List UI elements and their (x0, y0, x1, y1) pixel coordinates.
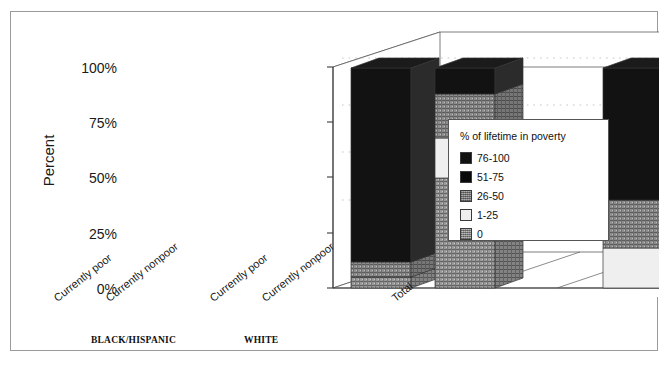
legend-label-26-50: 26-50 (477, 190, 504, 202)
y-tick-label-75: 75% (51, 115, 117, 131)
legend: % of lifetime in poverty 76-100 51-75 26… (448, 119, 609, 241)
y-tick-label-50: 50% (51, 170, 117, 186)
legend-swatch-51-75-icon (460, 171, 472, 183)
legend-label-1-25: 1-25 (477, 209, 498, 221)
bar-white-currently-poor (603, 58, 659, 288)
legend-swatch-1-25-icon (460, 209, 472, 221)
y-tick-label-25: 25% (51, 226, 117, 242)
legend-swatch-0-icon (460, 228, 472, 240)
y-axis-title: Percent (40, 106, 57, 216)
bar-black-hispanic-currently-poor (351, 58, 439, 288)
legend-item-1-25[interactable]: 1-25 (460, 206, 608, 224)
legend-item-51-75[interactable]: 51-75 (460, 168, 608, 186)
chart-figure: 100% 75% 50% 25% 0% Percent Currently po… (0, 0, 670, 370)
legend-item-0[interactable]: 0 (460, 225, 608, 243)
legend-title: % of lifetime in poverty (460, 130, 608, 142)
legend-item-76-100[interactable]: 76-100 (460, 149, 608, 167)
legend-item-26-50[interactable]: 26-50 (460, 187, 608, 205)
legend-label-51-75: 51-75 (477, 171, 504, 183)
legend-label-0: 0 (477, 228, 483, 240)
group-label-black-hispanic: BLACK/HISPANIC (91, 335, 176, 345)
y-tick-label-100: 100% (51, 60, 117, 76)
figure-frame: 100% 75% 50% 25% 0% Percent Currently po… (10, 11, 658, 351)
legend-swatch-76-100-icon (460, 152, 472, 164)
group-label-white: WHITE (244, 335, 278, 345)
legend-label-76-100: 76-100 (477, 152, 510, 164)
legend-swatch-26-50-icon (460, 190, 472, 202)
